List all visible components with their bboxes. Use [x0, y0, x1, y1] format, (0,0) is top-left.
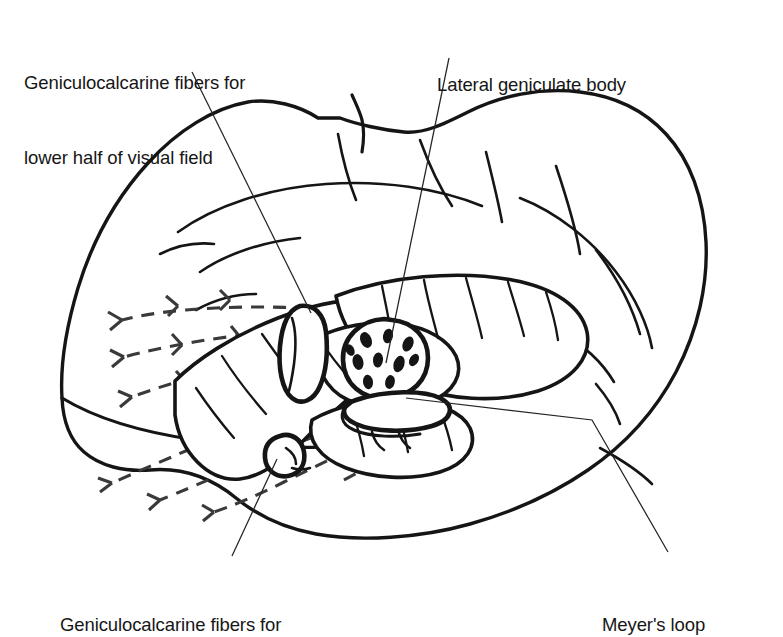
- label-geniculocalcarine-lower: Geniculocalcarine fibers for lower half …: [24, 20, 245, 220]
- label-lateral-geniculate-body: Lateral geniculate body: [437, 22, 626, 147]
- figure-root: Geniculocalcarine fibers for lower half …: [0, 0, 783, 637]
- upper-fiber-loop: [280, 306, 327, 402]
- label-line: Meyer's loop: [602, 612, 705, 637]
- label-line: lower half of visual field: [24, 145, 245, 170]
- lateral-geniculate-body: [343, 319, 428, 398]
- label-line: Geniculocalcarine fibers for: [24, 70, 245, 95]
- label-line: Lateral geniculate body: [437, 72, 626, 97]
- label-meyers-loop: Meyer's loop: [602, 562, 705, 637]
- label-geniculocalcarine-upper: Geniculocalcarine fibers for upper half …: [60, 562, 281, 637]
- label-line: Geniculocalcarine fibers for: [60, 612, 281, 637]
